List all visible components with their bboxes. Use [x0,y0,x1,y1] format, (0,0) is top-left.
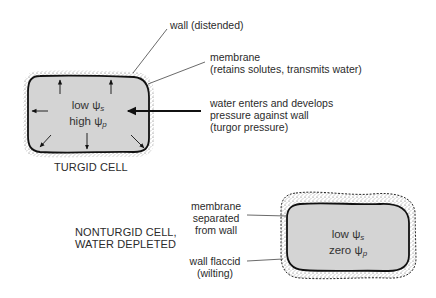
water-label-line1: water enters and develops [210,97,333,109]
membrane-separated-label: membrane separated from wall [186,200,246,236]
turgid-cell [23,29,205,157]
turgid-cell-potentials: low ψs high ψp [58,99,118,131]
wall-distended-label: wall (distended) [170,19,244,31]
water-label-line3: (turgor pressure) [210,121,333,133]
membrane-separated-line3: from wall [186,224,246,236]
nonturgid-solute-potential: low ψs [318,228,378,244]
membrane-label: membrane (retains solutes, transmits wat… [210,51,362,75]
membrane-leader-line [148,62,205,84]
wall-flaccid-line1: wall flaccid [184,255,246,267]
nonturgid-cell-caption: NONTURGID CELL, WATER DEPLETED [75,226,177,250]
nonturgid-cell-potentials: low ψs zero ψp [318,228,378,260]
membrane-separated-line1: membrane [186,200,246,212]
wall-flaccid-label: wall flaccid (wilting) [184,255,246,279]
nonturgid-pressure-potential: zero ψp [318,244,378,260]
membrane-separated-line2: separated [186,212,246,224]
water-enters-label: water enters and develops pressure again… [210,97,333,133]
turgid-solute-potential: low ψs [58,99,118,115]
turgid-pressure-potential: high ψp [58,115,118,131]
membrane-label-line1: membrane [210,51,362,63]
nonturgid-caption-line2: WATER DEPLETED [75,238,177,250]
nonturgid-caption-line1: NONTURGID CELL, [75,226,177,238]
wall-leader-line [133,29,167,73]
wall-flaccid-leader-line [247,259,283,261]
membrane-label-line2: (retains solutes, transmits water) [210,63,362,75]
wall-flaccid-line2: (wilting) [184,267,246,279]
turgid-cell-caption: TURGID CELL [54,161,128,173]
water-label-line2: pressure against wall [210,109,333,121]
